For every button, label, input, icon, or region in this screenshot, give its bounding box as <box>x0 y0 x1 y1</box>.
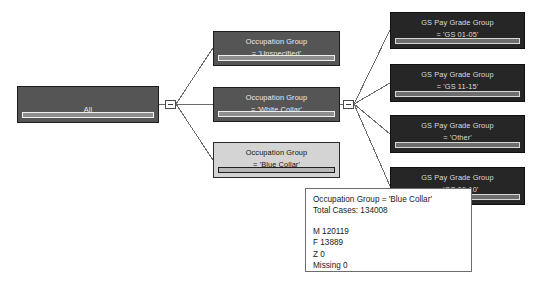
tree-node-gs-01-05[interactable]: GS Pay Grade Group = 'GS 01-05' <box>390 12 525 49</box>
tooltip-stat-z: Z 0 <box>313 249 464 260</box>
tree-node-title: GS Pay Grade Group <box>421 120 493 131</box>
tree-node-title: Occupation Group <box>246 92 308 103</box>
tree-node-bar <box>218 55 335 61</box>
tooltip-spacer <box>313 217 464 226</box>
collapse-toggle-white-collar[interactable] <box>343 100 354 109</box>
tree-node-occupation-unspecified[interactable]: Occupation Group = 'Unspecified' <box>213 31 340 66</box>
tree-node-title: GS Pay Grade Group <box>421 172 493 183</box>
tree-node-title: Occupation Group <box>246 36 308 47</box>
tree-node-root-bar <box>22 112 154 118</box>
tree-node-occupation-white-collar[interactable]: Occupation Group = 'White Collar' <box>213 87 340 122</box>
minus-icon <box>346 104 351 105</box>
tree-node-bar <box>395 38 520 44</box>
tree-node-title: GS Pay Grade Group <box>421 69 493 80</box>
tooltip-total-cases: Total Cases: 134008 <box>313 205 464 216</box>
tree-node-bar <box>395 142 520 148</box>
tree-node-gs-other[interactable]: GS Pay Grade Group = 'Other' <box>390 115 525 153</box>
tooltip-stat-male: M 120119 <box>313 226 464 237</box>
tree-node-bar <box>218 111 335 117</box>
tree-node-bar <box>395 91 520 97</box>
tree-node-gs-11-15[interactable]: GS Pay Grade Group = 'GS 11-15' <box>390 64 525 102</box>
tree-node-occupation-blue-collar[interactable]: Occupation Group = 'Blue Collar' <box>213 142 340 178</box>
tooltip-stat-missing: Missing 0 <box>313 260 464 271</box>
tree-node-root[interactable]: All <box>17 86 159 123</box>
tooltip-stat-female: F 13889 <box>313 237 464 248</box>
tree-node-title: Occupation Group <box>246 147 308 158</box>
decision-tree-canvas: All Occupation Group = 'Unspecified' Occ… <box>0 0 539 288</box>
tree-node-bar <box>218 167 335 173</box>
collapse-toggle-root[interactable] <box>165 100 176 109</box>
node-info-tooltip: Occupation Group = 'Blue Collar' Total C… <box>305 188 472 272</box>
minus-icon <box>168 104 173 105</box>
tooltip-header: Occupation Group = 'Blue Collar' <box>313 194 464 205</box>
tree-node-title: GS Pay Grade Group <box>421 17 493 28</box>
